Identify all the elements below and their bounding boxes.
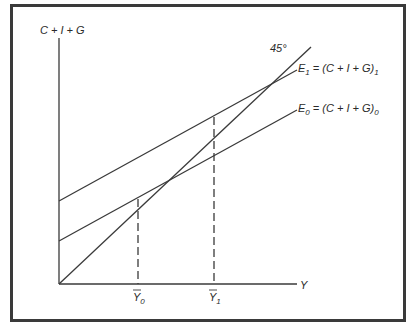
e1-label: E1 = (C + I + G)1	[298, 62, 379, 77]
keynesian-cross-diagram: C + I + G Y 45° E1 = (C + I + G)1 E0 = (…	[0, 0, 414, 329]
y0-label: Y0	[133, 291, 145, 306]
x-axis-label: Y	[300, 279, 308, 291]
y1-label: Y1	[209, 291, 221, 306]
e0-label: E0 = (C + I + G)0	[298, 102, 379, 117]
45-degree-label: 45°	[270, 42, 287, 54]
e1-line	[59, 70, 297, 201]
y-axis-label: C + I + G	[40, 24, 85, 36]
e0-line	[59, 110, 297, 241]
